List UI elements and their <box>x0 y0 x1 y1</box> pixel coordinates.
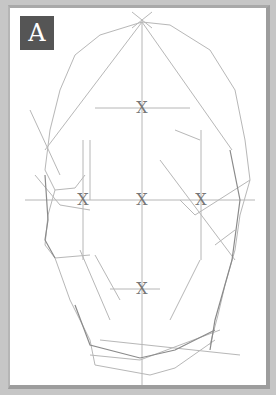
mark-brow-center: X <box>134 100 150 116</box>
mark-eye-right: X <box>193 192 209 208</box>
mark-eye-left: X <box>75 192 91 208</box>
mark-nose-center: X <box>134 192 150 208</box>
mark-mouth-center: X <box>134 281 150 297</box>
figure-frame: A X X X X X <box>0 0 276 395</box>
figure-label-badge: A <box>20 16 54 50</box>
